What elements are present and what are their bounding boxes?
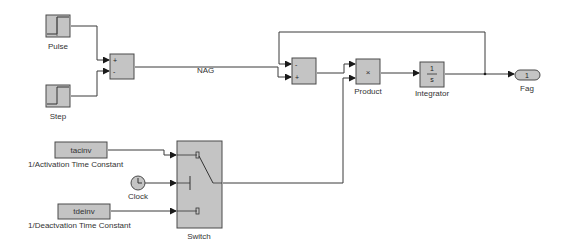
product-block[interactable]: × Product <box>354 59 382 96</box>
integrator-label: Integrator <box>415 89 450 98</box>
pulse-label: Pulse <box>48 42 69 51</box>
sum1-block[interactable]: + - <box>110 54 134 79</box>
outport-number: 1 <box>525 72 529 79</box>
step-label: Step <box>50 112 67 121</box>
wire-switch-to-product[interactable] <box>223 78 355 183</box>
clock-block[interactable]: Clock <box>128 176 149 201</box>
sum1-sign-plus: + <box>113 57 117 64</box>
wire-step-to-sum1[interactable] <box>71 71 109 96</box>
wire-sum2-to-product[interactable] <box>317 64 355 73</box>
svg-text:s: s <box>430 76 434 83</box>
switch-block[interactable]: Switch <box>177 141 222 241</box>
switch-label: Switch <box>187 232 211 241</box>
wire-pulse-to-sum1[interactable] <box>71 26 109 60</box>
tdeinv-label: 1/Deactvation Time Constant <box>28 221 131 230</box>
svg-text:1: 1 <box>430 65 434 72</box>
outport-label: Fag <box>520 84 534 93</box>
step-block[interactable]: Step <box>46 85 70 121</box>
simulink-canvas: NAG Pulse Step + - - + × Product 1 s <box>0 0 567 250</box>
product-label: Product <box>354 87 382 96</box>
tdeinv-constant-block[interactable]: tdeinv 1/Deactvation Time Constant <box>28 204 131 230</box>
tacinv-constant-block[interactable]: tacinv 1/Activation Time Constant <box>28 142 124 169</box>
clock-label: Clock <box>128 192 149 201</box>
sum2-sign-plus: + <box>295 74 299 81</box>
outport-fag[interactable]: 1 Fag <box>515 70 540 93</box>
wire-tacinv-to-switch[interactable] <box>108 150 176 155</box>
signal-label-nag: NAG <box>197 66 214 75</box>
tacinv-label: 1/Activation Time Constant <box>28 160 124 169</box>
product-icon: × <box>366 68 371 77</box>
branch-point <box>484 73 487 76</box>
tacinv-value: tacinv <box>71 146 92 155</box>
tdeinv-value: tdeinv <box>73 207 94 216</box>
integrator-block[interactable]: 1 s Integrator <box>415 62 450 98</box>
pulse-block[interactable]: Pulse <box>46 15 70 51</box>
sum2-block[interactable]: - + <box>292 58 316 84</box>
